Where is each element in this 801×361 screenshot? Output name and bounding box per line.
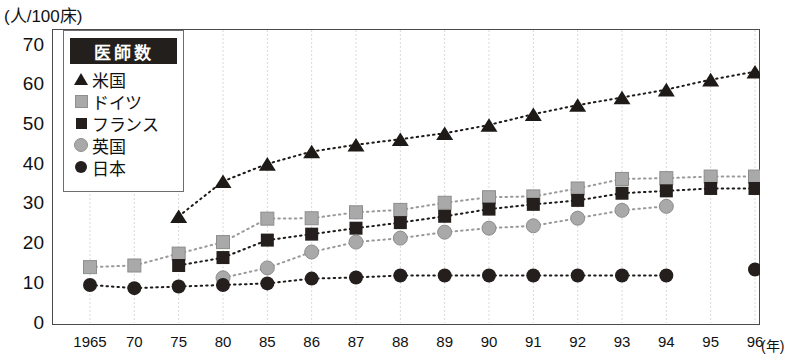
data-point-marker xyxy=(748,262,760,276)
data-point-marker xyxy=(349,270,363,284)
data-point-marker xyxy=(482,268,496,282)
data-point-marker xyxy=(702,73,719,87)
circle-light-icon xyxy=(70,138,92,152)
data-point-marker xyxy=(571,194,584,207)
y-axis-tick-label: 20 xyxy=(0,232,44,254)
data-point-marker xyxy=(393,231,407,245)
data-point-marker xyxy=(527,198,540,211)
legend-item-0: 米国 xyxy=(70,68,180,90)
data-point-marker xyxy=(571,182,584,195)
data-point-marker xyxy=(659,199,673,213)
data-point-marker xyxy=(261,212,274,225)
square-light-icon xyxy=(70,95,92,108)
data-point-marker xyxy=(438,210,451,223)
series-line-segment xyxy=(223,164,267,181)
legend-item-4: 日本 xyxy=(70,156,180,178)
data-point-marker xyxy=(438,196,451,209)
data-point-marker xyxy=(350,222,363,235)
data-point-marker xyxy=(217,251,230,264)
y-axis-tick-label: 60 xyxy=(0,73,44,95)
data-point-marker xyxy=(615,203,629,217)
series-layer xyxy=(83,65,760,295)
data-point-marker xyxy=(660,184,673,197)
legend-entries: 米国ドイツフランス英国日本 xyxy=(70,68,180,178)
triangle-up-icon xyxy=(70,73,92,85)
data-point-marker xyxy=(483,191,496,204)
legend-item-2: フランス xyxy=(70,112,180,134)
legend-item-3: 英国 xyxy=(70,134,180,156)
y-axis-tick-label: 40 xyxy=(0,153,44,175)
legend-item-label: 日本 xyxy=(92,155,125,180)
doctor-count-chart: (人/100床) 706050403020100 196570758085868… xyxy=(0,0,801,361)
data-point-marker xyxy=(215,175,232,189)
data-point-marker xyxy=(525,107,542,121)
data-point-marker xyxy=(172,247,185,260)
data-point-marker xyxy=(172,259,185,272)
data-point-marker xyxy=(749,170,761,183)
data-point-marker xyxy=(216,278,230,292)
data-point-marker xyxy=(83,278,97,292)
data-point-marker xyxy=(305,228,318,241)
data-point-marker xyxy=(260,276,274,290)
data-point-marker xyxy=(84,261,97,274)
y-axis-tick-label: 0 xyxy=(0,312,44,334)
data-point-marker xyxy=(658,83,675,97)
data-point-marker xyxy=(749,182,761,195)
data-point-marker xyxy=(571,211,585,225)
series-フランス xyxy=(172,182,760,272)
data-point-marker xyxy=(305,245,319,259)
series-米国 xyxy=(170,65,760,223)
legend-item-1: ドイツ xyxy=(70,90,180,112)
data-point-marker xyxy=(747,65,761,79)
data-point-marker xyxy=(438,268,452,282)
data-point-marker xyxy=(704,170,717,183)
data-point-marker xyxy=(394,216,407,229)
data-point-marker xyxy=(659,268,673,282)
circle-dark-icon xyxy=(70,161,92,173)
data-point-marker xyxy=(616,172,629,185)
data-point-marker xyxy=(127,281,141,295)
data-point-marker xyxy=(526,268,540,282)
data-point-marker xyxy=(128,259,141,272)
data-point-marker xyxy=(616,187,629,200)
data-point-marker xyxy=(394,203,407,216)
series-line-segment xyxy=(445,209,489,216)
data-point-marker xyxy=(261,234,274,247)
data-point-marker xyxy=(483,203,496,216)
data-point-marker xyxy=(482,221,496,235)
square-dark-icon xyxy=(70,118,92,129)
data-point-marker xyxy=(350,206,363,219)
series-line-segment xyxy=(400,216,444,222)
y-axis-unit-label: (人/100床) xyxy=(4,2,82,27)
data-point-marker xyxy=(349,235,363,249)
y-axis-tick-label: 10 xyxy=(0,272,44,294)
series-line-segment xyxy=(622,191,666,193)
x-axis-unit-label: (年) xyxy=(761,335,784,355)
data-point-marker xyxy=(615,268,629,282)
data-point-marker xyxy=(704,182,717,195)
y-axis-tick-label: 50 xyxy=(0,113,44,135)
series-line-segment xyxy=(666,188,710,190)
data-point-marker xyxy=(481,118,498,132)
data-point-marker xyxy=(259,157,276,171)
series-line-segment xyxy=(489,204,533,209)
series-line-segment xyxy=(267,234,311,240)
data-point-marker xyxy=(660,172,673,185)
data-point-marker xyxy=(571,268,585,282)
data-point-marker xyxy=(438,225,452,239)
legend-title: 医師数 xyxy=(70,38,177,64)
y-axis-tick-label: 70 xyxy=(0,34,44,56)
data-point-marker xyxy=(172,280,186,294)
data-point-marker xyxy=(305,272,319,286)
data-point-marker xyxy=(260,261,274,275)
series-line-segment xyxy=(312,228,356,234)
data-point-marker xyxy=(393,268,407,282)
gridlines xyxy=(90,30,755,323)
data-point-marker xyxy=(526,219,540,233)
series-line-segment xyxy=(356,223,400,229)
y-axis-tick-label: 30 xyxy=(0,192,44,214)
data-point-marker xyxy=(217,236,230,249)
data-point-marker xyxy=(305,212,318,225)
